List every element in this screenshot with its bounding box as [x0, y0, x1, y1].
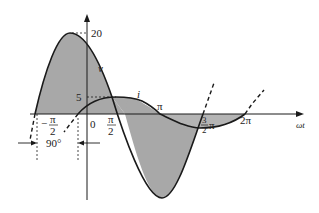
x-axis-label: ωt: [296, 120, 305, 130]
x-tick-pi: π: [157, 100, 163, 112]
y-axis-arrow-icon: [84, 14, 90, 22]
i-curve-label: i: [137, 88, 140, 100]
x-tick-zero: 0: [90, 118, 96, 130]
phase-arrow-left-icon: [78, 141, 84, 146]
i-curve-extension-right: [245, 90, 264, 114]
phase-label: 90°: [46, 137, 61, 149]
v-curve-label: v: [98, 62, 103, 74]
x-tick-neg-half-pi: − π 2: [41, 113, 58, 137]
x-axis-arrow-icon: [296, 111, 304, 117]
svg-text:π: π: [50, 113, 56, 125]
svg-text:2: 2: [50, 125, 56, 137]
phase-dimension: 90°: [18, 137, 100, 149]
svg-text:3: 3: [202, 115, 207, 125]
svg-text:π: π: [209, 119, 215, 131]
x-tick-half-pi: π 2: [107, 113, 116, 137]
svg-text:π: π: [108, 113, 114, 125]
y-tick-20: 20: [91, 27, 103, 39]
v-curve-extension-left: [30, 114, 35, 140]
v-curve-extension-right: [203, 83, 214, 114]
x-tick-two-pi: 2π: [240, 114, 252, 126]
svg-text:2: 2: [202, 125, 207, 135]
power-waveform-diagram: 90° 20 5 v i − π 2 0 π 2 π 3 2 π 2π ωt: [0, 0, 319, 213]
y-tick-5: 5: [76, 91, 82, 103]
svg-text:−: −: [41, 117, 47, 129]
svg-text:2: 2: [108, 125, 114, 137]
i-curve-extension-left: [64, 114, 78, 132]
phase-arrow-right-icon: [31, 141, 37, 146]
